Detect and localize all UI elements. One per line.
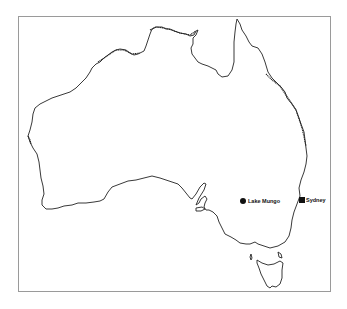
kimberley-rough-coast	[98, 50, 140, 62]
kangaroo-island	[196, 207, 205, 211]
tasmania-coastline	[257, 260, 283, 288]
mainland-coastline	[28, 19, 307, 248]
lake-mungo-label: Lake Mungo	[248, 198, 280, 204]
lake-mungo-marker[interactable]	[240, 198, 246, 204]
queensland-rough-coast	[266, 74, 306, 146]
king-island	[250, 254, 252, 260]
sydney-marker[interactable]	[299, 197, 305, 203]
flinders-island	[278, 252, 282, 258]
sydney-label: Sydney	[306, 197, 326, 203]
australia-coastline-map	[0, 0, 347, 309]
